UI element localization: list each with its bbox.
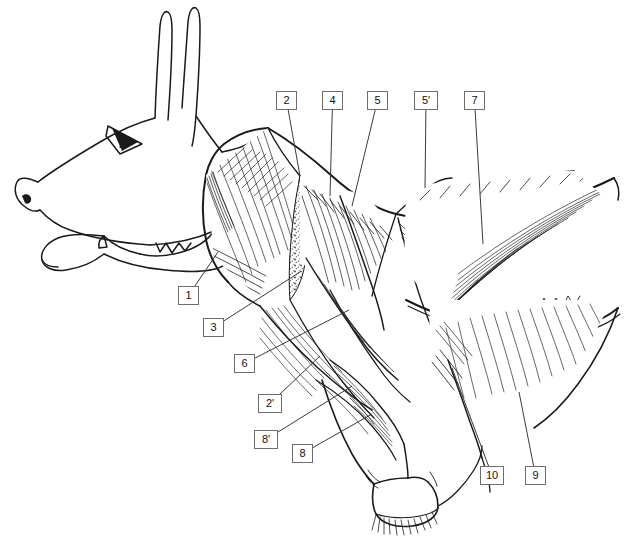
leader-line-5 — [352, 110, 375, 206]
leader-line-4 — [330, 110, 332, 196]
callout-label-text: 1 — [185, 290, 191, 301]
callout-label-text: 8' — [262, 434, 270, 445]
callout-label-text: 4 — [329, 95, 335, 106]
callout-label-2p[interactable]: 2' — [258, 394, 282, 413]
callout-label-8p[interactable]: 8' — [254, 430, 278, 449]
callout-label-text: 2 — [283, 95, 289, 106]
callout-label-3[interactable]: 3 — [203, 318, 224, 337]
callout-label-text: 8 — [299, 448, 305, 459]
callout-label-6[interactable]: 6 — [234, 354, 255, 373]
callout-label-4[interactable]: 4 — [322, 91, 343, 110]
callout-label-text: 7 — [471, 95, 477, 106]
callout-label-text: 5 — [374, 95, 380, 106]
callout-label-5p[interactable]: 5' — [414, 91, 438, 110]
callout-label-text: 3 — [210, 322, 216, 333]
callout-label-text: 2' — [266, 398, 274, 409]
leader-line-8p — [278, 386, 352, 432]
callout-label-8[interactable]: 8 — [292, 444, 313, 463]
callout-label-2[interactable]: 2 — [276, 91, 297, 110]
callout-label-text: 9 — [532, 470, 538, 481]
callout-label-text: 6 — [241, 358, 247, 369]
leader-line-8 — [313, 414, 372, 448]
callout-label-5[interactable]: 5 — [367, 91, 388, 110]
callout-label-10[interactable]: 10 — [480, 466, 504, 485]
callout-label-1[interactable]: 1 — [178, 286, 199, 305]
leader-line-5p — [425, 110, 426, 188]
figure-canvas: 123455'672'8'8109 — [0, 0, 625, 542]
callout-label-7[interactable]: 7 — [464, 91, 485, 110]
callout-label-text: 10 — [486, 470, 498, 481]
callout-label-9[interactable]: 9 — [525, 466, 546, 485]
callout-label-text: 5' — [422, 95, 430, 106]
